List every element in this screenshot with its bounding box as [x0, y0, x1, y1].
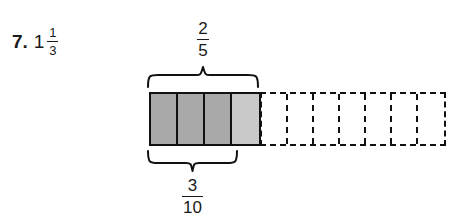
top-fraction-denominator: 5 [197, 42, 208, 59]
bottom-fraction: 3 10 [182, 177, 203, 216]
dashed-fraction-bar [260, 92, 446, 146]
dashed-bar-cell [288, 94, 314, 144]
bottom-fraction-numerator: 3 [187, 177, 198, 194]
bar-cell-shaded [151, 94, 178, 144]
top-brace-icon [147, 66, 259, 88]
dashed-bar-cell [366, 94, 392, 144]
top-fraction-label: 2 5 [148, 20, 258, 59]
dashed-bar-cell [392, 94, 418, 144]
solid-fraction-bar [149, 92, 261, 146]
bottom-brace-icon [147, 150, 238, 172]
dashed-bar-cell [418, 94, 444, 144]
dashed-bar-cell [340, 94, 366, 144]
bar-cell-shaded [205, 94, 232, 144]
bottom-fraction-label: 3 10 [148, 177, 237, 216]
top-fraction: 2 5 [197, 20, 208, 59]
fraction-bar-diagram: 2 5 3 10 [0, 0, 452, 221]
bar-cell-shaded [178, 94, 205, 144]
dashed-bar-cell [314, 94, 340, 144]
top-fraction-numerator: 2 [197, 20, 208, 37]
dashed-bar-cell [262, 94, 288, 144]
bottom-fraction-denominator: 10 [182, 199, 203, 216]
bar-cell-light-shaded [232, 94, 259, 144]
